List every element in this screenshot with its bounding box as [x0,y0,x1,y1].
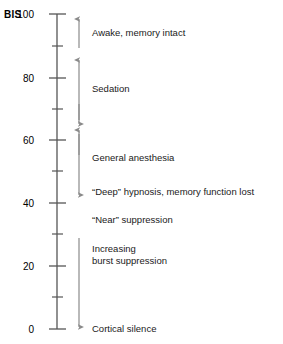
zone-label-general-anesthesia: General anesthesia [92,152,174,164]
zone-label-burst-suppression: Increasing burst suppression [92,243,167,267]
zone-label-near-suppression: “Near” suppression [92,214,173,226]
zone-label-deep-hypnosis: “Deep” hypnosis, memory function lost [92,186,254,198]
bis-scale-figure: BIS 100 80 60 40 20 0 [0,0,283,344]
scale-axis-graphic [0,0,283,344]
zone-label-cortical-silence: Cortical silence [92,323,156,335]
zone-label-sedation: Sedation [92,83,130,95]
zone-label-awake: Awake, memory intact [92,27,185,39]
